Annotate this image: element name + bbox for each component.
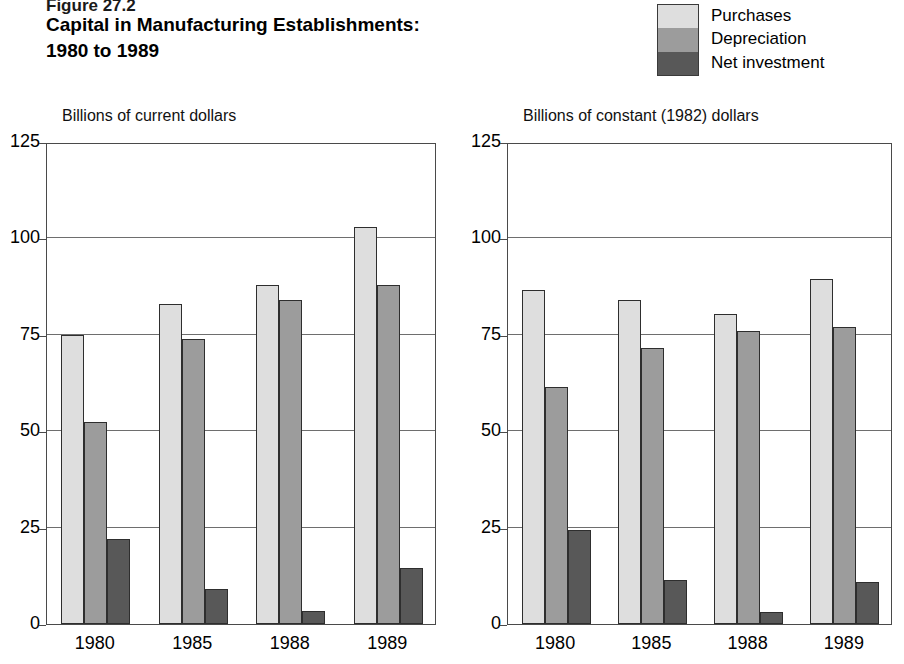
- legend-swatch-purchases: [658, 5, 698, 28]
- x-axis-tick-label-right-1989: 1989: [796, 633, 892, 654]
- page-title: Capital in Manufacturing Establishments:…: [46, 12, 420, 64]
- legend-swatch-stack: [657, 4, 699, 76]
- y-axis-tick-label-right-50: 50: [457, 420, 501, 441]
- bar-right-1988-net-investment: [760, 612, 783, 624]
- x-axis-tick-label-left-1989: 1989: [339, 633, 437, 654]
- figure-page: Figure 27.2 Capital in Manufacturing Est…: [0, 0, 904, 664]
- y-axis-tick-mark-left-50: [39, 432, 46, 433]
- x-axis-tick-label-left-1988: 1988: [241, 633, 339, 654]
- x-axis-tick-label-left-1985: 1985: [144, 633, 242, 654]
- y-axis-tick-label-right-0: 0: [457, 613, 501, 634]
- title-line-2: 1980 to 1989: [46, 38, 420, 64]
- gridline-100: [508, 237, 891, 238]
- y-axis-tick-label-right-125: 125: [457, 131, 501, 152]
- y-axis-tick-label-right-25: 25: [457, 517, 501, 538]
- plot-area-right: [507, 143, 892, 625]
- plot-area-left: [46, 143, 436, 625]
- x-axis-tick-label-right-1980: 1980: [507, 633, 603, 654]
- y-axis-tick-label-right-75: 75: [457, 324, 501, 345]
- y-axis-tick-label-left-75: 75: [0, 324, 40, 345]
- x-axis-tick-label-left-1980: 1980: [46, 633, 144, 654]
- bar-left-1988-net-investment: [302, 611, 325, 624]
- y-axis-tick-mark-right-125: [500, 143, 507, 144]
- legend-label-net-investment: Net investment: [711, 51, 824, 74]
- title-line-1: Capital in Manufacturing Establishments:: [46, 14, 420, 35]
- y-axis-tick-mark-left-0: [39, 625, 46, 626]
- y-axis-tick-label-left-50: 50: [0, 420, 40, 441]
- bar-right-1980-depreciation: [545, 387, 568, 624]
- bar-left-1985-purchases: [159, 304, 182, 624]
- bar-right-1980-purchases: [522, 290, 545, 624]
- y-axis-tick-label-left-0: 0: [0, 613, 40, 634]
- panel-axis-label-right: Billions of constant (1982) dollars: [523, 107, 759, 125]
- y-axis-tick-mark-left-75: [39, 336, 46, 337]
- bar-right-1988-depreciation: [737, 331, 760, 624]
- bar-right-1985-net-investment: [664, 580, 687, 624]
- bar-left-1980-purchases: [61, 335, 84, 624]
- legend-swatch-depreciation: [658, 28, 698, 51]
- x-axis-tick-label-right-1985: 1985: [603, 633, 699, 654]
- y-axis-tick-label-left-125: 125: [0, 131, 40, 152]
- bar-right-1989-depreciation: [833, 327, 856, 624]
- y-axis-tick-mark-right-100: [500, 239, 507, 240]
- legend-label-list: Purchases Depreciation Net investment: [711, 4, 824, 74]
- y-axis-tick-mark-right-0: [500, 625, 507, 626]
- bar-left-1989-purchases: [354, 227, 377, 624]
- panel-axis-label-left: Billions of current dollars: [62, 107, 236, 125]
- legend-swatch-net-investment: [658, 52, 698, 75]
- y-axis-tick-mark-left-25: [39, 529, 46, 530]
- chart-legend: Purchases Depreciation Net investment: [657, 4, 824, 76]
- bar-left-1988-depreciation: [279, 300, 302, 624]
- y-axis-tick-mark-left-125: [39, 143, 46, 144]
- legend-label-purchases: Purchases: [711, 4, 824, 27]
- bar-left-1980-depreciation: [84, 422, 107, 624]
- bar-left-1985-net-investment: [205, 589, 228, 624]
- y-axis-tick-mark-right-50: [500, 432, 507, 433]
- bar-left-1988-purchases: [256, 285, 279, 624]
- x-axis-tick-label-right-1988: 1988: [700, 633, 796, 654]
- y-axis-tick-mark-right-25: [500, 529, 507, 530]
- bar-left-1980-net-investment: [107, 539, 130, 624]
- y-axis-tick-mark-left-100: [39, 239, 46, 240]
- bar-left-1989-depreciation: [377, 285, 400, 624]
- bar-right-1985-depreciation: [641, 348, 664, 624]
- bar-right-1988-purchases: [714, 314, 737, 624]
- y-axis-tick-label-left-100: 100: [0, 227, 40, 248]
- y-axis-tick-mark-right-75: [500, 336, 507, 337]
- bar-left-1985-depreciation: [182, 339, 205, 624]
- bar-right-1980-net-investment: [568, 530, 591, 624]
- gridline-100: [47, 237, 435, 238]
- bar-left-1989-net-investment: [400, 568, 423, 624]
- bar-right-1989-net-investment: [856, 582, 879, 624]
- legend-label-depreciation: Depreciation: [711, 27, 824, 50]
- bar-right-1985-purchases: [618, 300, 641, 624]
- y-axis-tick-label-left-25: 25: [0, 517, 40, 538]
- bar-right-1989-purchases: [810, 279, 833, 624]
- y-axis-tick-label-right-100: 100: [457, 227, 501, 248]
